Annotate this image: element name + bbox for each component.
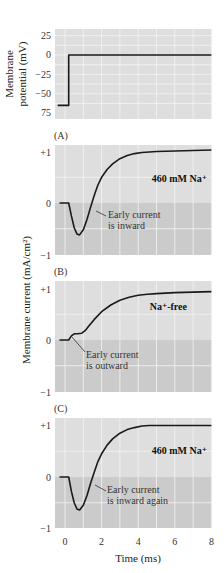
xtick: 4: [136, 536, 141, 547]
current-ylabel: Membrane current (mA/cm²): [20, 236, 33, 364]
xtick: 8: [209, 536, 214, 547]
x-axis-ticks: 02468: [63, 536, 214, 547]
panel-label-a: (A): [54, 130, 68, 142]
xtick: 6: [172, 536, 177, 547]
panel-label-b: (B): [54, 266, 67, 278]
annotation-a-line2: is inward: [108, 220, 145, 231]
ytick: −50: [35, 88, 51, 99]
annotation-a-line1: Early current: [108, 209, 161, 220]
ytick: 25: [41, 30, 51, 41]
voltage-ylabel-line1: Membrane: [3, 50, 15, 98]
xtick: 0: [63, 536, 68, 547]
ytick: +1: [40, 147, 51, 158]
condition-label-b: Na⁺-free: [150, 301, 188, 312]
ytick: 75: [41, 107, 51, 118]
figure: 25 0 −25 −50 75 Membrane potential (mV) …: [0, 0, 224, 573]
annotation-c-line1: Early current: [107, 484, 160, 495]
ytick: 0: [46, 472, 51, 483]
panel-a-yticks: +1 0 −1: [40, 147, 51, 261]
ytick: +1: [40, 420, 51, 431]
ytick: −1: [40, 523, 51, 534]
ytick: −1: [40, 387, 51, 398]
annotation-c-line2: is inward again: [107, 495, 168, 506]
panel-b: [55, 281, 212, 392]
ytick: 0: [46, 49, 51, 60]
panel-b-yticks: +1 0 −1: [40, 284, 51, 398]
panel-c: [55, 418, 212, 528]
condition-label-c: 460 mM Na⁺: [152, 445, 207, 456]
panel-label-c: (C): [54, 403, 67, 415]
panel-a: [55, 145, 212, 255]
ytick: −1: [40, 250, 51, 261]
x-axis-label: Time (ms): [115, 552, 161, 565]
panel-c-yticks: +1 0 −1: [40, 420, 51, 534]
ytick: −25: [35, 69, 51, 80]
ytick: 0: [46, 335, 51, 346]
xtick: 2: [99, 536, 104, 547]
ytick: +1: [40, 284, 51, 295]
voltage-ylabel-line2: potential (mV): [16, 41, 29, 106]
annotation-b-line1: Early current: [86, 349, 139, 360]
condition-label-a: 460 mM Na⁺: [152, 173, 207, 184]
voltage-yticks: 25 0 −25 −50 75: [35, 30, 51, 118]
ytick: 0: [46, 198, 51, 209]
voltage-panel: [55, 29, 212, 119]
annotation-b-line2: is outward: [86, 360, 128, 371]
